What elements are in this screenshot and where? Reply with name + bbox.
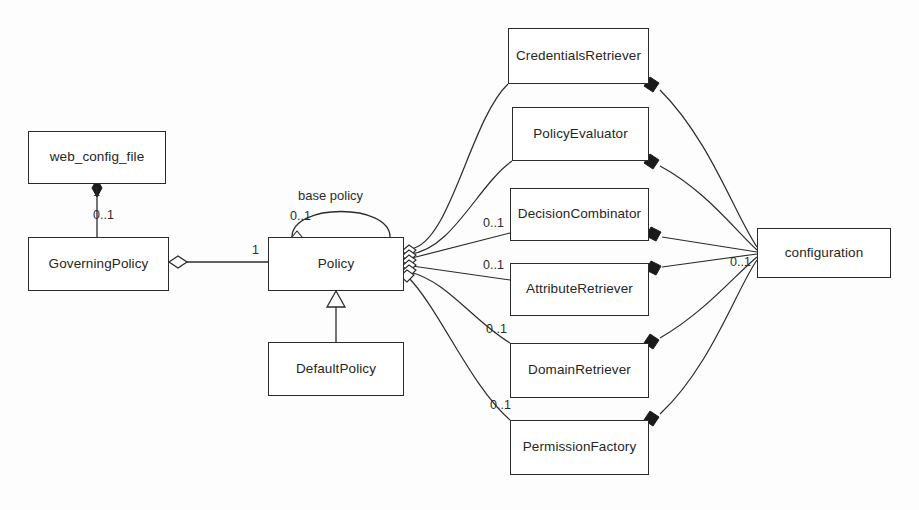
multiplicity-permission-factory: 0..1 — [490, 398, 511, 412]
hollow-triangle-icon — [327, 291, 345, 307]
class-name-decision-combinator: DecisionCombinator — [514, 207, 645, 222]
multiplicity-web-config-file: 1 — [93, 185, 100, 199]
class-box-web-config-file[interactable]: web_config_file — [28, 131, 166, 184]
edge-decisioncombinator-configuration — [646, 227, 757, 252]
class-box-decision-combinator[interactable]: DecisionCombinator — [510, 188, 649, 241]
multiplicity-policy-governing: 1 — [252, 243, 259, 257]
multiplicity-attribute-retriever: 0..1 — [483, 258, 504, 272]
class-box-domain-retriever[interactable]: DomainRetriever — [510, 343, 649, 398]
class-name-credentials-retriever: CredentialsRetriever — [512, 49, 645, 64]
class-box-default-policy[interactable]: DefaultPolicy — [268, 342, 404, 396]
edge-domainretriever-configuration — [644, 257, 757, 349]
class-box-attribute-retriever[interactable]: AttributeRetriever — [510, 263, 649, 316]
class-name-attribute-retriever: AttributeRetriever — [522, 282, 637, 297]
class-name-default-policy: DefaultPolicy — [292, 362, 380, 377]
class-name-governing-policy: GoverningPolicy — [45, 257, 153, 272]
edge-governing-policy — [169, 256, 268, 268]
class-name-configuration: configuration — [781, 246, 868, 261]
edge-permissionfactory-configuration — [644, 260, 757, 426]
class-box-policy[interactable]: Policy — [268, 237, 404, 291]
edge-policyevaluator-configuration — [644, 154, 757, 250]
class-box-policy-evaluator[interactable]: PolicyEvaluator — [512, 107, 649, 161]
multiplicity-governing-policy: 0..1 — [93, 208, 114, 222]
class-name-domain-retriever: DomainRetriever — [524, 363, 635, 378]
multiplicity-configuration: 0..1 — [730, 255, 751, 269]
edge-policy-credentialsretriever — [402, 84, 508, 257]
multiplicity-decision-combinator: 0..1 — [483, 216, 504, 230]
edge-defaultpolicy-policy — [327, 291, 345, 342]
class-name-policy-evaluator: PolicyEvaluator — [529, 127, 632, 142]
class-box-permission-factory[interactable]: PermissionFactory — [510, 420, 649, 475]
uml-class-diagram: web_config_file GoverningPolicy Policy D… — [0, 0, 919, 510]
class-box-governing-policy[interactable]: GoverningPolicy — [28, 237, 169, 291]
multiplicity-base-policy: 0..1 — [290, 209, 311, 223]
edge-credentialsretriever-configuration — [644, 77, 757, 247]
class-name-policy: Policy — [314, 257, 359, 272]
class-name-web-config-file: web_config_file — [46, 150, 149, 165]
class-box-configuration[interactable]: configuration — [757, 228, 891, 278]
class-name-permission-factory: PermissionFactory — [519, 440, 640, 455]
association-name-base-policy: base policy — [298, 188, 363, 203]
multiplicity-domain-retriever: 0..1 — [486, 322, 507, 336]
class-box-credentials-retriever[interactable]: CredentialsRetriever — [508, 28, 649, 84]
open-diamond-icon — [169, 256, 187, 268]
